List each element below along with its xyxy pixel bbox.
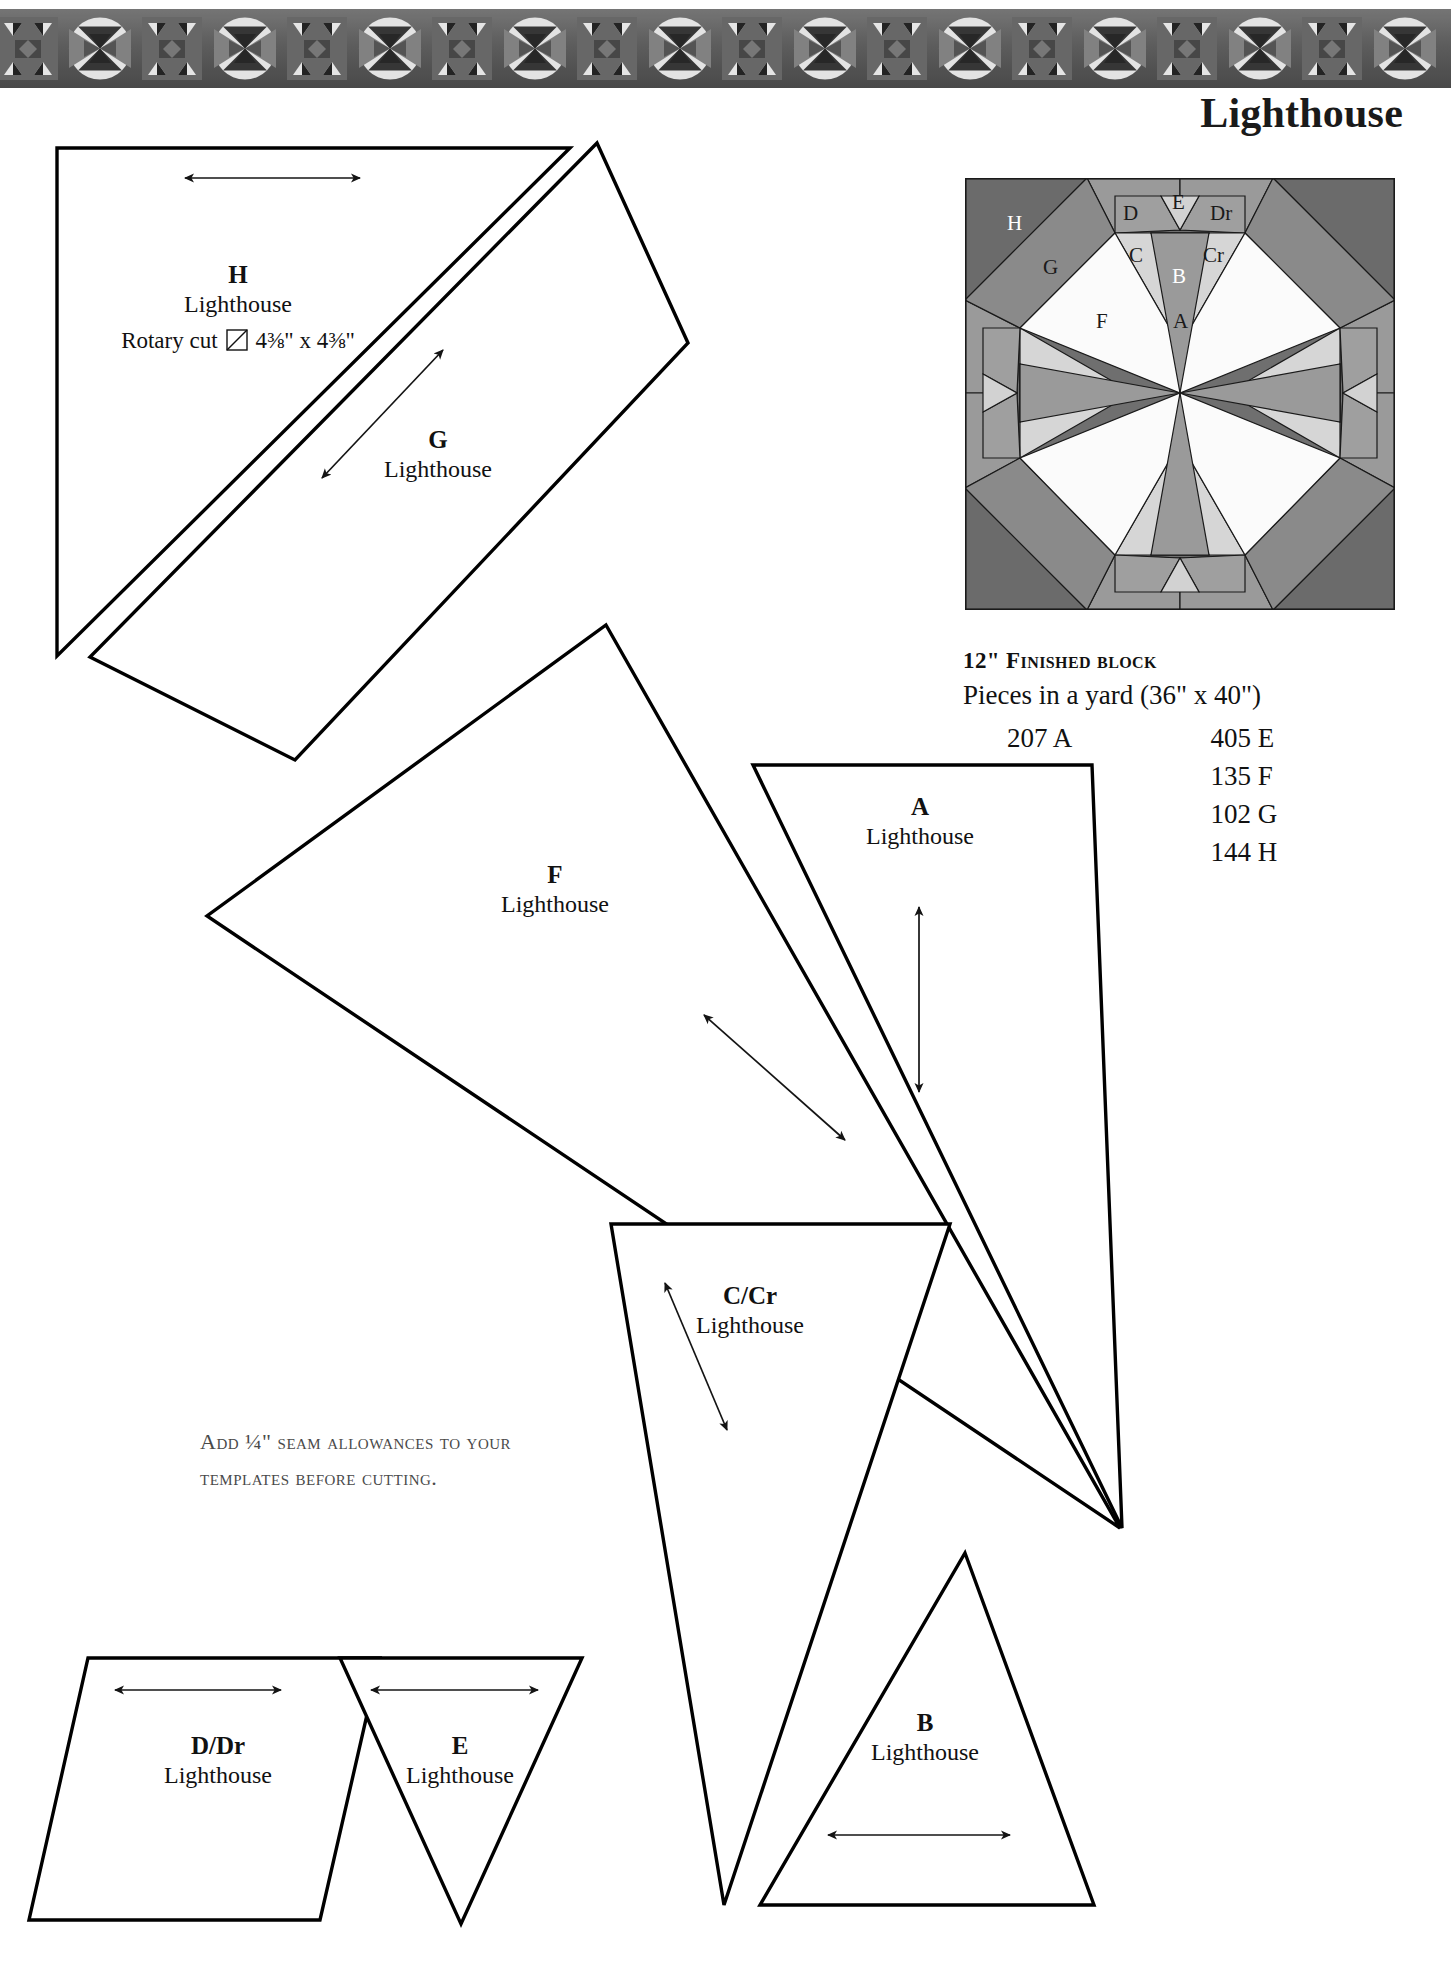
template-label-b: B Lighthouse bbox=[805, 1708, 1045, 1766]
seam-note-line1: Add ¼" seam allowances to your bbox=[200, 1424, 670, 1460]
template-letter-a: A bbox=[800, 792, 1040, 822]
template-name-b: Lighthouse bbox=[805, 1738, 1045, 1766]
template-label-h: H Lighthouse Rotary cut 4⅜" x 4⅜" bbox=[118, 260, 358, 354]
template-name-a: Lighthouse bbox=[800, 822, 1040, 850]
rotary-cut-size: 4⅜" x 4⅜" bbox=[256, 327, 355, 354]
template-letter-f: F bbox=[435, 860, 675, 890]
seam-note-line2: templates before cutting. bbox=[200, 1460, 670, 1496]
seam-allowance-note: Add ¼" seam allowances to your templates… bbox=[200, 1424, 670, 1495]
template-letter-h: H bbox=[118, 260, 358, 290]
template-name-g: Lighthouse bbox=[318, 455, 558, 483]
square-diagonal-icon bbox=[225, 328, 249, 352]
pattern-page: Lighthouse bbox=[0, 0, 1451, 1984]
template-letter-ccr: C/Cr bbox=[630, 1281, 870, 1311]
template-label-ddr: D/Dr Lighthouse bbox=[98, 1731, 338, 1789]
template-name-h: Lighthouse bbox=[118, 290, 358, 318]
template-name-ddr: Lighthouse bbox=[98, 1761, 338, 1789]
template-name-f: Lighthouse bbox=[435, 890, 675, 918]
template-name-e: Lighthouse bbox=[340, 1761, 580, 1789]
template-letter-e: E bbox=[340, 1731, 580, 1761]
rotary-cut-instruction: Rotary cut 4⅜" x 4⅜" bbox=[118, 327, 358, 354]
template-letter-g: G bbox=[318, 425, 558, 455]
template-shape-ddr bbox=[29, 1658, 380, 1920]
template-label-e: E Lighthouse bbox=[340, 1731, 580, 1789]
rotary-cut-prefix: Rotary cut bbox=[121, 327, 217, 354]
template-label-ccr: C/Cr Lighthouse bbox=[630, 1281, 870, 1339]
template-label-a: A Lighthouse bbox=[800, 792, 1040, 850]
template-label-f: F Lighthouse bbox=[435, 860, 675, 918]
template-letter-ddr: D/Dr bbox=[98, 1731, 338, 1761]
template-label-g: G Lighthouse bbox=[318, 425, 558, 483]
template-letter-b: B bbox=[805, 1708, 1045, 1738]
template-shape-e bbox=[340, 1658, 582, 1924]
template-name-ccr: Lighthouse bbox=[630, 1311, 870, 1339]
